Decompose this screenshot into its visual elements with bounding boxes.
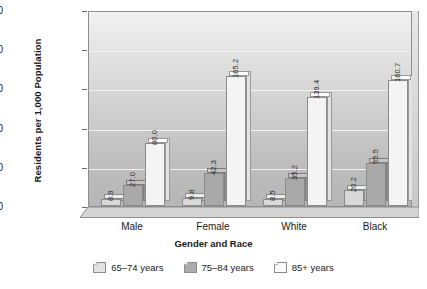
- bar-value-label: 27.0: [128, 172, 137, 187]
- y-tick-mark: [82, 50, 87, 51]
- plot-floor-shape: [80, 206, 419, 218]
- chart-figure: Residents per 1,000 Population 050100150…: [0, 0, 427, 289]
- bar-side-face: [327, 92, 332, 201]
- legend-label: 85+ years: [292, 262, 334, 273]
- bar-value-label: 35.2: [290, 165, 299, 180]
- bar-value-label: 165.2: [231, 59, 240, 78]
- legend-item[interactable]: 85+ years: [274, 262, 334, 273]
- bar-front-face: [145, 143, 165, 206]
- bar-front-face: [344, 190, 364, 206]
- bar-value-label: 9.8: [187, 190, 196, 201]
- legend-swatch-icon: [184, 262, 197, 273]
- bar-value-label: 8.9: [106, 190, 115, 201]
- bar-front-face: [388, 80, 408, 206]
- x-axis-title: Gender and Race: [0, 238, 427, 249]
- y-tick-mark: [82, 168, 87, 169]
- plot-area: 8.927.080.09.842.3165.28.535.2139.420.25…: [88, 11, 412, 207]
- legend-swatch-icon: [274, 262, 287, 273]
- bar: [204, 173, 224, 206]
- x-tick-label: Female: [168, 221, 258, 232]
- bar: [145, 143, 165, 206]
- legend-swatch-icon: [93, 262, 106, 273]
- x-tick-label: Black: [330, 221, 420, 232]
- gridline: [89, 51, 411, 52]
- bar: [123, 185, 143, 206]
- bar-front-face: [285, 178, 305, 206]
- legend-item[interactable]: 65–74 years: [93, 262, 163, 273]
- bar-front-face: [307, 97, 327, 206]
- bar-side-face: [246, 71, 251, 201]
- bar: [285, 178, 305, 206]
- bar-front-face: [123, 185, 143, 206]
- y-axis-title: Residents per 1,000 Population: [32, 16, 43, 206]
- bar-value-label: 8.5: [268, 191, 277, 202]
- bar-front-face: [226, 76, 246, 206]
- bar: [344, 190, 364, 206]
- legend-label: 75–84 years: [202, 262, 254, 273]
- y-tick-label: 200: [0, 44, 3, 55]
- y-tick-label: 0: [0, 201, 3, 212]
- bar-value-label: 139.4: [312, 79, 321, 98]
- y-tick-label: 150: [0, 83, 3, 94]
- bar-value-label: 55.5: [371, 149, 380, 164]
- legend-item[interactable]: 75–84 years: [184, 262, 254, 273]
- y-tick-label: 100: [0, 123, 3, 134]
- bar: [388, 80, 408, 206]
- bar: [226, 76, 246, 206]
- bar-value-label: 160.7: [393, 63, 402, 82]
- plot-right-wall: [412, 11, 419, 207]
- y-tick-mark: [82, 129, 87, 130]
- plot-floor: [80, 206, 419, 218]
- bar-front-face: [366, 163, 386, 207]
- bar-value-label: 80.0: [150, 130, 159, 145]
- bar: [307, 97, 327, 206]
- y-tick-label: 250: [0, 5, 3, 16]
- y-tick-mark: [82, 89, 87, 90]
- chart-legend: 65–74 years75–84 years85+ years: [0, 262, 427, 273]
- bar-front-face: [204, 173, 224, 206]
- bar-value-label: 42.3: [209, 160, 218, 175]
- x-tick-label: White: [249, 221, 339, 232]
- y-tick-label: 50: [0, 162, 3, 173]
- gridline: [89, 12, 411, 13]
- y-tick-mark: [82, 11, 87, 12]
- bar-value-label: 20.2: [349, 177, 358, 192]
- bar: [366, 163, 386, 207]
- legend-label: 65–74 years: [111, 262, 163, 273]
- x-tick-label: Male: [87, 221, 177, 232]
- bar-side-face: [165, 138, 170, 201]
